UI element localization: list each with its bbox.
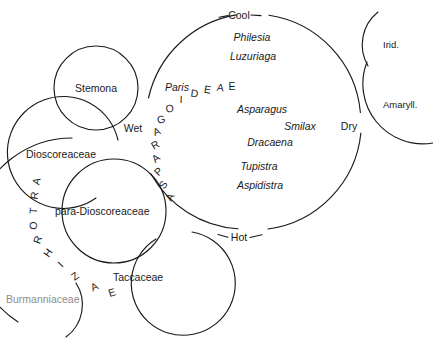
arc-letter-artorhizae-4: R xyxy=(30,234,44,246)
asparagoideae-arc-label: A S P A R A G O I D E A E xyxy=(149,80,236,203)
genus-label-aspidistra: Aspidistra xyxy=(236,179,283,191)
arc-letter-asparagoideae-11: A xyxy=(216,81,224,94)
arc-letter-artorhizae-9: E xyxy=(107,285,117,299)
hot-connector-right xyxy=(250,235,262,238)
genus-label-asparagus: Asparagus xyxy=(236,103,288,115)
arc-letter-artorhizae-8: A xyxy=(88,279,100,293)
climate-label-dry: Dry xyxy=(341,120,358,132)
taxon-label-stemona: Stemona xyxy=(75,82,117,94)
taxon-label-iridaceae: Irid. xyxy=(383,39,399,50)
arc-letter-asparagoideae-9: D xyxy=(190,87,200,100)
arc-letter-asparagoideae-2: P xyxy=(151,165,165,178)
arc-letter-artorhizae-3: O xyxy=(27,221,40,230)
arc-letter-artorhizae-2: T xyxy=(27,207,39,215)
cool-connector-right xyxy=(251,15,261,16)
arc-letter-asparagoideae-6: G xyxy=(156,112,167,126)
genus-label-tupistra: Tupistra xyxy=(240,160,277,172)
taxon-label-para-dioscoreaceae: para-Dioscoreaceae xyxy=(55,205,150,217)
genus-label-luzuriaga: Luzuriaga xyxy=(230,50,276,62)
figure-canvas-root: A S P A R A G O I D E A E A R T O R H I … xyxy=(0,0,433,361)
arc-letter-artorhizae-0: A xyxy=(29,176,42,185)
genus-label-smilax: Smilax xyxy=(284,120,316,132)
asparagoideae-arc-top-right xyxy=(269,15,360,112)
arc-letter-asparagoideae-10: E xyxy=(203,83,212,96)
asparagoideae-genus-labels: Philesia Luzuriaga Paris Asparagus Smila… xyxy=(165,31,316,191)
burmanniaceae-arc xyxy=(66,283,82,337)
arc-letter-asparagoideae-7: O xyxy=(165,102,174,115)
arc-letter-asparagoideae-1: S xyxy=(156,178,170,191)
arc-letter-asparagoideae-8: I xyxy=(179,93,182,105)
taxon-label-amaryllidaceae: Amaryll. xyxy=(383,99,417,110)
arc-letter-asparagoideae-4: R xyxy=(149,137,162,151)
taccaceae-arc xyxy=(131,232,235,335)
artorhizae-arc-label: A R T O R H I Z A E xyxy=(27,176,117,298)
hot-connector-left xyxy=(218,235,228,238)
climate-label-wet: Wet xyxy=(124,122,143,134)
taxon-label-burmanniaceae: Burmanniaceae xyxy=(6,293,80,305)
diagram-svg: A S P A R A G O I D E A E A R T O R H I … xyxy=(0,0,433,361)
arc-letter-asparagoideae-5: A xyxy=(151,124,162,138)
genus-label-dracaena: Dracaena xyxy=(247,136,293,148)
genus-label-philesia: Philesia xyxy=(234,31,271,43)
taxon-label-dioscoreaceae: Dioscoreaceae xyxy=(26,148,96,160)
arc-letter-artorhizae-7: Z xyxy=(69,269,82,283)
climate-label-hot: Hot xyxy=(231,231,247,243)
taxon-label-taccaceae: Taccaceae xyxy=(113,271,163,283)
iridaceae-arc xyxy=(362,12,378,66)
arc-letter-asparagoideae-12: E xyxy=(228,80,235,92)
climate-label-cool: Cool xyxy=(228,9,250,21)
genus-label-paris: Paris xyxy=(165,81,190,93)
arc-letter-artorhizae-5: H xyxy=(41,246,55,259)
arc-letter-artorhizae-6: I xyxy=(55,259,66,270)
arc-letter-asparagoideae-3: A xyxy=(149,151,162,165)
arc-letter-artorhizae-1: R xyxy=(28,190,41,200)
